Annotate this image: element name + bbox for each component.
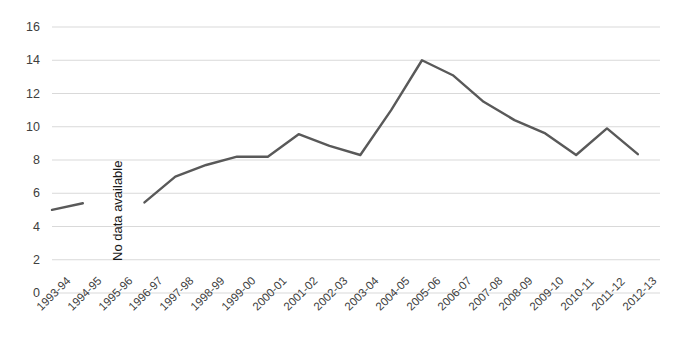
y-axis-tick-label: 10 [14, 121, 40, 134]
y-axis-tick-label: 4 [14, 221, 40, 234]
data-line [52, 203, 83, 210]
y-axis-tick-label: 12 [14, 88, 40, 101]
y-axis-tick-label: 2 [14, 254, 40, 267]
no-data-annotation: No data available [111, 161, 124, 261]
data-line [144, 60, 637, 202]
line-chart: 0246810121416 1993-941994-951995-961996-… [0, 0, 680, 350]
y-axis-tick-label: 0 [14, 287, 40, 300]
y-axis-tick-label: 16 [14, 21, 40, 34]
data-series-group [52, 60, 638, 210]
y-axis-tick-label: 14 [14, 54, 40, 67]
y-axis-tick-label: 8 [14, 154, 40, 167]
y-axis-tick-label: 6 [14, 187, 40, 200]
gridlines-group [52, 27, 660, 293]
